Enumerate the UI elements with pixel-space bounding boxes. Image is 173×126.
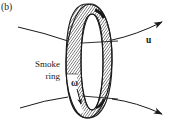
streamline-bottom-arrow [112,99,162,114]
smoke-ring-label-line2: ring [24,70,60,82]
panel-label: (b) [1,3,12,13]
smoke-ring-label: Smoke ring [24,58,60,82]
vorticity-label: ω [71,79,78,89]
streamline-top-arrow [112,22,162,40]
smoke-ring-label-line1: Smoke [24,58,60,70]
smoke-ring-diagram: (b) u Smoke ring ω [0,0,173,126]
velocity-label: u [146,36,151,46]
smoke-ring [64,3,114,119]
